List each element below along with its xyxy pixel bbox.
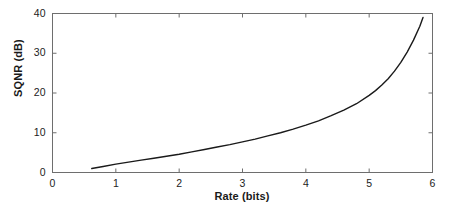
- x-tick-label: 1: [106, 177, 126, 189]
- x-tick-label: 6: [423, 177, 443, 189]
- data-line: [92, 17, 423, 168]
- y-axis-label: SQNR (dB): [12, 8, 24, 128]
- axis-ticks: [53, 14, 433, 173]
- axis-box: [53, 14, 433, 173]
- x-axis-label: Rate (bits): [52, 190, 432, 202]
- y-tick-label: 40: [22, 7, 46, 19]
- plot-area: [0, 0, 452, 210]
- x-tick-label: 5: [359, 177, 379, 189]
- x-tick-label: 0: [43, 177, 63, 189]
- data-curves: [92, 17, 423, 168]
- x-tick-label: 4: [296, 177, 316, 189]
- y-tick-label: 20: [22, 86, 46, 98]
- x-tick-label: 3: [233, 177, 253, 189]
- y-tick-label: 10: [22, 126, 46, 138]
- chart-figure: SQNR (dB) Rate (bits) 010203040 0123456: [0, 0, 452, 210]
- y-tick-label: 30: [22, 46, 46, 58]
- x-tick-label: 2: [169, 177, 189, 189]
